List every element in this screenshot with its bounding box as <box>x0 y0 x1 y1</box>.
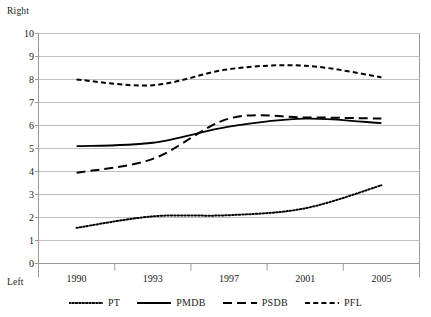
legend-swatch-pmdb <box>137 299 171 307</box>
legend-item-pmdb[interactable]: PMDB <box>137 298 206 308</box>
chart-legend: PTPMDBPSDBPFL <box>0 292 431 314</box>
legend-label-psdb: PSDB <box>262 298 288 308</box>
series-line-psdb <box>77 115 382 172</box>
x-tick-label-1990: 1990 <box>54 274 100 284</box>
x-tick-label-1997: 1997 <box>206 274 252 284</box>
legend-item-pfl[interactable]: PFL <box>305 298 362 308</box>
legend-swatch-pt <box>69 299 103 307</box>
legend-swatch-psdb <box>223 299 257 307</box>
chart-container: Right Left 109876543210 1990199319972001… <box>0 0 431 317</box>
legend-label-pt: PT <box>108 298 120 308</box>
series-line-pmdb <box>77 119 382 147</box>
legend-label-pfl: PFL <box>344 298 362 308</box>
x-tick-label-2001: 2001 <box>282 274 328 284</box>
series-line-pfl <box>77 65 382 85</box>
x-tick-label-2005: 2005 <box>358 274 404 284</box>
legend-label-pmdb: PMDB <box>176 298 206 308</box>
gridlines <box>39 34 420 264</box>
series-line-pt <box>77 185 382 228</box>
x-tick-label-1993: 1993 <box>130 274 176 284</box>
legend-item-psdb[interactable]: PSDB <box>223 298 288 308</box>
x-axis-tick-labels: 19901993199720012005 <box>0 268 431 286</box>
legend-swatch-pfl <box>305 299 339 307</box>
legend-item-pt[interactable]: PT <box>69 298 120 308</box>
series-lines <box>77 65 382 228</box>
